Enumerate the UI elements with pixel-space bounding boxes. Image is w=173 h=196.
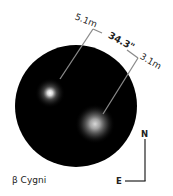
eyepiece-field: [15, 45, 137, 167]
star-a: [35, 78, 65, 108]
compass-north: N: [141, 129, 148, 139]
double-star-diagram: 5.1m 34.3" 3.1m β Cygni N E: [0, 0, 173, 196]
star-a-magnitude: 5.1m: [73, 11, 98, 29]
compass: [125, 139, 146, 181]
star-b: [75, 104, 115, 144]
compass-east: E: [116, 176, 122, 186]
star-name: β Cygni: [12, 175, 46, 185]
star-b-magnitude: 3.1m: [138, 51, 163, 71]
separation-label: 34.3": [106, 29, 136, 52]
